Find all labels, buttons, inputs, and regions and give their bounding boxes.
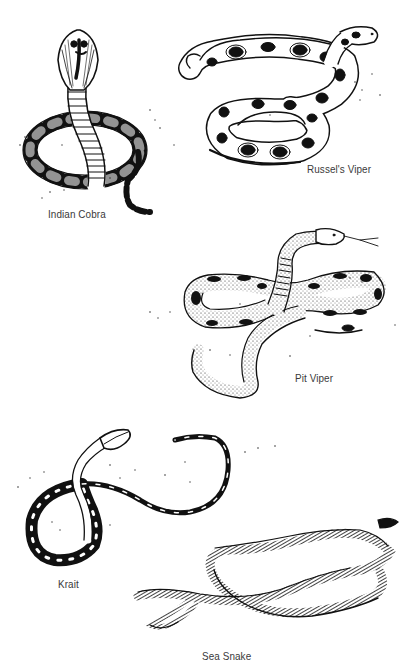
- label-indian-cobra: Indian Cobra: [48, 208, 106, 220]
- krait-drawing: [31, 430, 228, 561]
- snake-illustration-plate: Indian Cobra Russel's Viper Pit Viper Kr…: [0, 0, 419, 672]
- russels-viper-drawing: [186, 27, 377, 164]
- label-sea-snake: Sea Snake: [202, 650, 251, 662]
- sea-snake-drawing: [138, 518, 398, 627]
- indian-cobra-drawing: [23, 30, 150, 212]
- illustrations: [0, 0, 419, 672]
- label-pit-viper: Pit Viper: [295, 372, 333, 384]
- label-russels-viper: Russel's Viper: [307, 163, 371, 175]
- label-krait: Krait: [58, 578, 79, 590]
- pit-viper-drawing: [184, 229, 384, 398]
